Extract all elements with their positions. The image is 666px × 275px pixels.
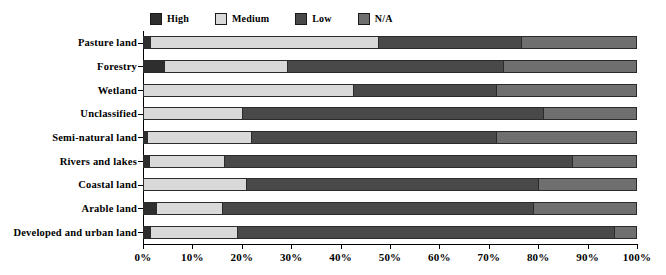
stacked-bar[interactable] xyxy=(143,84,637,97)
bar-segment-n-a[interactable] xyxy=(496,132,636,143)
x-axis-tick-label: 60% xyxy=(428,251,451,263)
x-axis-tick xyxy=(538,244,539,249)
legend-entry[interactable]: N/A xyxy=(358,13,393,25)
bar-segment-low[interactable] xyxy=(353,85,496,96)
bar-row: Arable land xyxy=(0,197,666,221)
x-axis-tick-label: 40% xyxy=(329,251,352,263)
legend-entry[interactable]: Low xyxy=(295,13,332,25)
x-axis-tick-label: 50% xyxy=(379,251,402,263)
x-axis-tick-label: 0% xyxy=(135,251,152,263)
bar-segment-high[interactable] xyxy=(144,203,156,214)
bar-segment-n-a[interactable] xyxy=(503,61,636,72)
x-axis-tick xyxy=(291,244,292,249)
bar-segment-n-a[interactable] xyxy=(521,37,636,48)
x-axis-tick xyxy=(637,244,638,249)
bar-segment-low[interactable] xyxy=(237,227,613,238)
legend-entry[interactable]: Medium xyxy=(215,13,269,25)
bar-segment-n-a[interactable] xyxy=(543,108,636,119)
bar-segment-medium[interactable] xyxy=(164,61,287,72)
legend-swatch-icon xyxy=(215,13,227,25)
x-axis-tick xyxy=(192,244,193,249)
category-label: Arable land xyxy=(0,203,137,214)
x-axis-tick xyxy=(143,244,144,249)
bar-segment-medium[interactable] xyxy=(156,203,222,214)
x-axis-tick xyxy=(588,244,589,249)
legend-swatch-icon xyxy=(150,13,162,25)
bar-segment-n-a[interactable] xyxy=(533,203,636,214)
stacked-bar[interactable] xyxy=(143,131,637,144)
stacked-bar[interactable] xyxy=(143,60,637,73)
category-label: Developed and urban land xyxy=(0,227,137,238)
legend-entry[interactable]: High xyxy=(150,13,189,25)
bar-row: Forestry xyxy=(0,55,666,79)
legend-label: N/A xyxy=(375,14,393,24)
legend-label: Medium xyxy=(232,14,269,24)
legend-swatch-icon xyxy=(295,13,307,25)
category-label: Unclassified xyxy=(0,108,137,119)
x-axis-tick-label: 80% xyxy=(527,251,550,263)
bar-segment-medium[interactable] xyxy=(150,37,378,48)
bar-segment-medium[interactable] xyxy=(150,227,238,238)
bar-row: Semi-natural land xyxy=(0,126,666,150)
category-label: Semi-natural land xyxy=(0,132,137,143)
x-axis-tick-label: 100% xyxy=(623,251,651,263)
stacked-bar[interactable] xyxy=(143,155,637,168)
x-axis-ticks: 0%10%20%30%40%50%60%70%80%90%100% xyxy=(0,244,666,274)
bar-row: Rivers and lakes xyxy=(0,149,666,173)
bar-segment-high[interactable] xyxy=(144,61,164,72)
x-axis-tick xyxy=(439,244,440,249)
bar-segment-medium[interactable] xyxy=(144,85,353,96)
x-axis-tick xyxy=(242,244,243,249)
legend-swatch-icon xyxy=(358,13,370,25)
x-axis-tick xyxy=(489,244,490,249)
stacked-bar-chart: HighMediumLowN/A Pasture landForestryWet… xyxy=(0,0,666,275)
legend-label: High xyxy=(167,14,189,24)
category-label: Forestry xyxy=(0,61,137,72)
bar-segment-low[interactable] xyxy=(378,37,521,48)
stacked-bar[interactable] xyxy=(143,107,637,120)
stacked-bar[interactable] xyxy=(143,202,637,215)
x-axis-tick xyxy=(390,244,391,249)
bar-rows: Pasture landForestryWetlandUnclassifiedS… xyxy=(0,31,666,244)
bar-row: Unclassified xyxy=(0,102,666,126)
x-axis-tick xyxy=(341,244,342,249)
x-axis-tick-label: 20% xyxy=(230,251,253,263)
bar-row: Developed and urban land xyxy=(0,220,666,244)
x-axis-tick-label: 30% xyxy=(280,251,303,263)
category-label: Coastal land xyxy=(0,179,137,190)
bar-segment-n-a[interactable] xyxy=(614,227,636,238)
category-label: Wetland xyxy=(0,85,137,96)
x-axis-tick-label: 70% xyxy=(477,251,500,263)
bar-row: Pasture land xyxy=(0,31,666,55)
bar-segment-low[interactable] xyxy=(287,61,503,72)
legend-label: Low xyxy=(312,14,332,24)
bar-segment-medium[interactable] xyxy=(149,156,224,167)
bar-row: Wetland xyxy=(0,78,666,102)
bar-segment-medium[interactable] xyxy=(147,132,251,143)
stacked-bar[interactable] xyxy=(143,178,637,191)
stacked-bar[interactable] xyxy=(143,36,637,49)
chart-legend: HighMediumLowN/A xyxy=(150,11,393,27)
bar-segment-n-a[interactable] xyxy=(538,179,636,190)
bar-segment-n-a[interactable] xyxy=(572,156,636,167)
bar-segment-low[interactable] xyxy=(251,132,496,143)
bar-segment-low[interactable] xyxy=(222,203,532,214)
category-label: Pasture land xyxy=(0,37,137,48)
bar-segment-low[interactable] xyxy=(224,156,572,167)
bar-segment-low[interactable] xyxy=(242,108,542,119)
bar-segment-medium[interactable] xyxy=(144,179,246,190)
bar-row: Coastal land xyxy=(0,173,666,197)
x-axis-tick-label: 90% xyxy=(576,251,599,263)
bar-segment-medium[interactable] xyxy=(144,108,242,119)
stacked-bar[interactable] xyxy=(143,226,637,239)
bar-segment-n-a[interactable] xyxy=(496,85,636,96)
x-axis-tick-label: 10% xyxy=(181,251,204,263)
bar-segment-low[interactable] xyxy=(246,179,537,190)
category-label: Rivers and lakes xyxy=(0,156,137,167)
